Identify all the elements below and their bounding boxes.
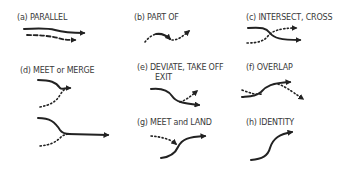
panel-c-drawing [247, 28, 300, 43]
panel-b-drawing [145, 31, 189, 42]
panel-e-drawing [151, 89, 199, 105]
trajectory-drawings [0, 0, 341, 170]
panel-d-drawing-top [38, 80, 70, 107]
panel-f-drawing [242, 82, 303, 99]
panel-d-drawing-bottom [38, 118, 108, 146]
panel-a-drawing [24, 28, 84, 40]
panel-h-drawing [251, 132, 292, 160]
panel-g-drawing [151, 136, 205, 158]
